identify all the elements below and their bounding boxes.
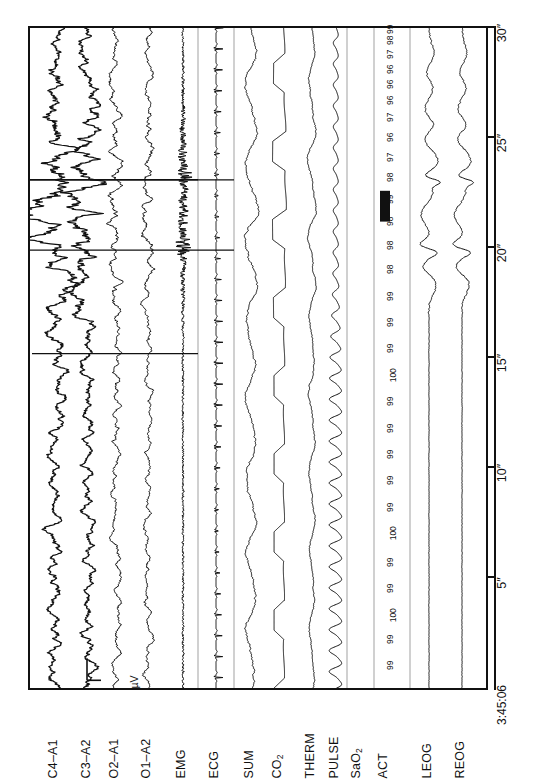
sao2-reading: 99	[386, 502, 395, 511]
trace-o1a2	[140, 28, 155, 688]
channel-label-o2a1: O2–A1	[108, 738, 121, 778]
time-tick-label: 10″	[495, 464, 509, 482]
channel-label-pulse: PULSE	[328, 736, 341, 778]
channel-label-c3a2: C3–A2	[80, 739, 93, 778]
channel-label-reog: REOG	[454, 740, 467, 778]
sao2-reading: 96	[386, 133, 395, 142]
sao2-reading: 97	[386, 153, 395, 162]
sao2-reading: 100	[389, 368, 398, 382]
channel-label-co2: CO2	[271, 754, 284, 778]
trace-leog	[420, 28, 440, 688]
calibration-amplitude-label: 35 µV	[129, 676, 140, 690]
polysomnogram-figure: 35 µV 1 s C4–A1C3–A2O2–A1O1–A2EMGECGSUMC…	[0, 0, 548, 780]
sao2-reading: 99	[386, 423, 395, 432]
sao2-reading: 100	[389, 608, 398, 622]
signal-traces	[30, 28, 486, 688]
trace-co2	[272, 28, 286, 688]
chart-plot-area: 35 µV 1 s	[28, 26, 488, 690]
sao2-reading: 97	[386, 49, 395, 58]
channel-label-ecg: ECG	[208, 750, 221, 778]
channel-label-sum: SUM	[243, 750, 256, 778]
sao2-reading: 97	[386, 113, 395, 122]
trace-therm	[307, 28, 316, 688]
sao2-reading: 100	[389, 526, 398, 540]
sao2-reading: 99	[386, 450, 395, 459]
channel-label-subscript: 2	[275, 754, 285, 759]
recording-start-time: 3:45:06	[495, 685, 509, 725]
time-tick-label: 30″	[495, 24, 509, 42]
sao2-reading: 99	[386, 634, 395, 643]
trace-sum	[244, 28, 259, 688]
trace-ecg	[214, 28, 223, 688]
sao2-reading: 98	[386, 36, 395, 45]
sao2-reading: 98	[386, 216, 395, 225]
sao2-reading: 99	[386, 25, 395, 34]
channel-label-text: CO	[270, 759, 284, 778]
time-tick-label: 15″	[495, 354, 509, 372]
trace-pulse	[329, 28, 341, 688]
trace-c3a2	[61, 28, 107, 688]
sao2-reading: 99	[386, 291, 395, 300]
sao2-reading: 99	[386, 344, 395, 353]
trace-reog	[453, 28, 474, 688]
channel-label-o1a2: O1–A2	[140, 738, 153, 778]
sao2-reading: 99	[386, 194, 395, 203]
channel-label-c4a1: C4–A1	[47, 739, 60, 778]
sao2-reading: 96	[386, 95, 395, 104]
channel-label-leog: LEOG	[421, 742, 434, 778]
time-tick-label: 25″	[495, 134, 509, 152]
channel-label-text: SaO	[349, 752, 363, 778]
sao2-reading: 96	[386, 65, 395, 74]
trace-o2a1	[107, 28, 124, 688]
sao2-reading: 99	[386, 476, 395, 485]
time-tick-label: 5″	[495, 577, 509, 588]
channel-label-strip: C4–A1C3–A2O2–A1O1–A2EMGECGSUMCO2THERMPUL…	[28, 692, 488, 780]
time-axis: 3:45:06 5″10″15″20″25″30″	[488, 26, 548, 690]
sao2-reading: 99	[386, 661, 395, 670]
sao2-reading: 99	[386, 584, 395, 593]
sao2-reading: 98	[386, 172, 395, 181]
sao2-reading: 98	[386, 241, 395, 250]
sao2-reading: 99	[386, 397, 395, 406]
time-tick-label: 20″	[495, 244, 509, 262]
sao2-reading: 99	[386, 318, 395, 327]
trace-emg	[176, 28, 192, 688]
channel-label-emg: EMG	[175, 749, 188, 778]
channel-label-therm: THERM	[304, 733, 317, 778]
channel-label-act: ACT	[377, 752, 390, 778]
channel-label-subscript: 2	[354, 747, 364, 752]
sao2-reading: 98	[386, 265, 395, 274]
channel-label-sao2: SaO2	[350, 747, 363, 778]
sao2-reading: 99	[386, 557, 395, 566]
trace-c4a1	[30, 28, 79, 688]
sao2-reading: 96	[386, 80, 395, 89]
